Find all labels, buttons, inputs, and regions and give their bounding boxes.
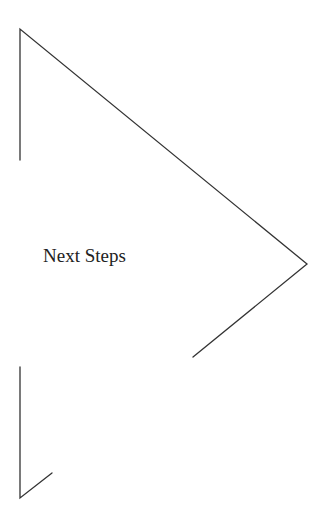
- arrow-lower-edge: [20, 367, 52, 498]
- shape-label: Next Steps: [43, 245, 126, 267]
- arrow-upper-edge: [20, 29, 307, 357]
